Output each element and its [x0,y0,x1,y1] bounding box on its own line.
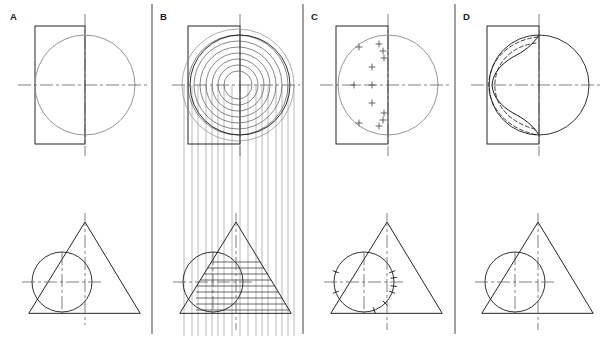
drawing-figure: ABCD [0,0,608,338]
technical-drawing-canvas: ABCD [0,0,608,338]
plot-point-c-8 [381,110,388,117]
panel-label-C: C [311,11,318,22]
top-tick-c-1 [391,277,397,278]
panel-label-B: B [160,11,167,22]
plot-point-c-5 [351,82,358,89]
plot-point-c-4 [369,64,376,71]
plot-point-c-10 [376,123,383,130]
top-tick-c-2 [391,286,397,287]
panel-label-A: A [10,11,17,22]
panel-label-D: D [463,11,470,22]
plot-point-c-7 [369,100,376,107]
cone-triangle-d [482,222,593,313]
plot-point-c-11 [356,120,363,127]
cone-triangle-b [180,222,291,313]
cone-triangle-a [29,222,140,313]
plot-point-c-3 [381,55,388,62]
plot-point-c-6 [369,82,376,89]
plot-point-c-1 [376,41,383,48]
plot-point-c-9 [380,117,387,124]
plot-point-c-0 [356,44,363,51]
plot-point-c-2 [380,48,387,55]
cone-triangle-c [331,222,442,313]
hidden-curve-outer-d [489,37,538,135]
